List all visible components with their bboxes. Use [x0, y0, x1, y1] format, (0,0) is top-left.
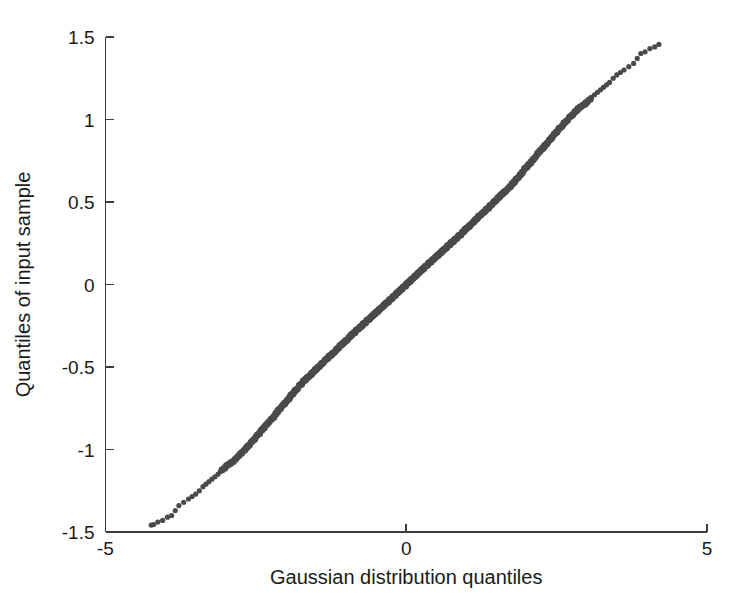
- x-tick-label: -5: [97, 538, 114, 559]
- y-tick-label: 1: [84, 110, 95, 131]
- x-axis-title: Gaussian distribution quantiles: [270, 566, 542, 588]
- x-tick-label: 0: [401, 538, 412, 559]
- y-axis-title: Quantiles of input sample: [12, 172, 34, 398]
- figure-background: [0, 0, 729, 616]
- data-point: [197, 488, 202, 493]
- data-point: [635, 56, 640, 61]
- data-point: [647, 46, 652, 51]
- data-point: [181, 500, 186, 505]
- chart-svg: 1.510.50-0.5-1-1.5 -505 Gaussian distrib…: [0, 0, 729, 616]
- data-point: [607, 80, 612, 85]
- data-point: [169, 513, 174, 518]
- data-point: [642, 49, 647, 54]
- data-point: [173, 508, 178, 513]
- data-point: [588, 95, 593, 100]
- data-point: [176, 503, 181, 508]
- data-point: [656, 42, 661, 47]
- y-tick-label: -0.5: [62, 357, 95, 378]
- x-tick-label: 5: [702, 538, 713, 559]
- data-point: [631, 61, 636, 66]
- data-point: [621, 67, 626, 72]
- y-tick-label: -1.5: [62, 522, 95, 543]
- y-tick-label: 1.5: [68, 27, 94, 48]
- data-point: [160, 518, 165, 523]
- qq-plot-figure: 1.510.50-0.5-1-1.5 -505 Gaussian distrib…: [0, 0, 729, 616]
- y-tick-label: -1: [78, 440, 95, 461]
- data-point: [155, 520, 160, 525]
- data-point: [626, 64, 631, 69]
- y-tick-label: 0.5: [68, 192, 94, 213]
- y-tick-label: 0: [84, 275, 95, 296]
